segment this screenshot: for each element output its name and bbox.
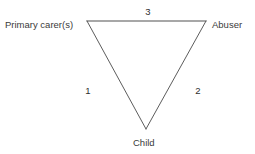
edge-line-right: [146, 21, 206, 129]
edge-line-left: [87, 21, 146, 129]
node-label-primary-carers: Primary carer(s): [5, 20, 73, 30]
edge-label-1: 1: [82, 86, 94, 96]
triangle-diagram: Primary carer(s) Abuser Child 1 2 3: [0, 0, 255, 154]
edge-label-3: 3: [142, 7, 154, 17]
node-label-abuser: Abuser: [212, 20, 242, 30]
edge-label-2: 2: [192, 86, 204, 96]
node-label-child: Child: [133, 138, 155, 148]
